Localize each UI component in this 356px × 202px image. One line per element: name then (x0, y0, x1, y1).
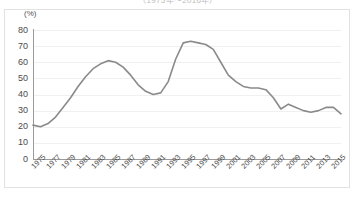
x-axis-tick-labels: 1975197719791981198319851987198919911993… (0, 0, 356, 202)
chart-figure: （1975年～2016年） (%) 01020304050607080 1975… (0, 0, 356, 202)
x-axis-tick-label: 2015 (330, 153, 347, 170)
